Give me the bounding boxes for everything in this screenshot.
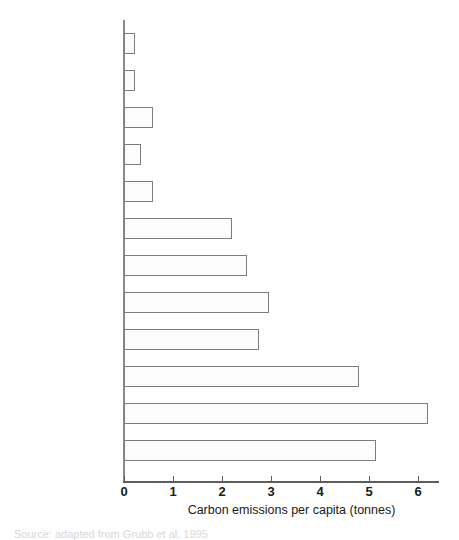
bar [124, 329, 259, 350]
x-axis-tick-label: 6 [403, 484, 433, 500]
bar [124, 255, 247, 276]
x-axis-tick-mark [173, 476, 174, 482]
x-axis-tick-mark [320, 476, 321, 482]
bar [124, 181, 153, 202]
bar [124, 292, 269, 313]
x-axis-tick-mark [271, 476, 272, 482]
x-axis-tick-mark [124, 476, 125, 482]
x-axis-tick-label: 4 [305, 484, 335, 500]
x-axis-tick-mark [369, 476, 370, 482]
bar [124, 107, 153, 128]
x-axis-tick-label: 0 [109, 484, 139, 500]
bar [124, 144, 141, 165]
bar [124, 70, 135, 91]
x-axis-line [123, 481, 439, 483]
x-axis-tick-label: 5 [354, 484, 384, 500]
bar [124, 403, 428, 424]
x-axis-tick-label: 2 [207, 484, 237, 500]
bar [124, 366, 359, 387]
x-axis-title-text: Carbon emissions per capita (tonnes) [64, 503, 396, 517]
bar [124, 33, 135, 54]
source-caption: Source: adapted from Grubb et al. 1995 [14, 528, 208, 540]
x-axis-tick-label: 3 [256, 484, 286, 500]
x-axis-tick-mark [222, 476, 223, 482]
x-axis-title: Carbon emissions per capita (tonnes) [0, 503, 459, 517]
x-axis-tick-mark [418, 476, 419, 482]
x-axis-tick-label: 1 [158, 484, 188, 500]
bar [124, 218, 232, 239]
bar [124, 440, 376, 461]
